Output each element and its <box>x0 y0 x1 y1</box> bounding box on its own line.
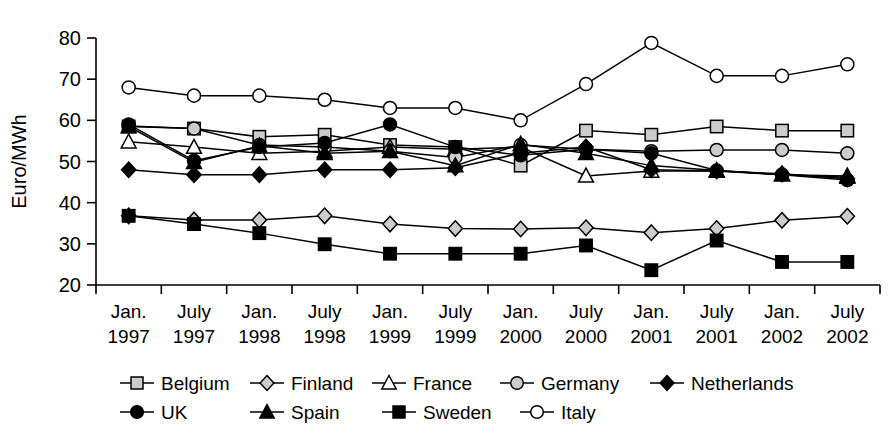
datapoint-netherlands-3-marker <box>318 162 332 178</box>
datapoint-netherlands-4 <box>383 162 397 178</box>
datapoint-uk-5 <box>449 141 462 154</box>
legend-marker-belgium-marker <box>131 377 143 389</box>
legend-marker-finland-marker <box>260 376 274 391</box>
legend-marker-italy-marker <box>531 406 544 419</box>
datapoint-italy-8-marker <box>645 36 658 49</box>
datapoint-finland-7-marker <box>579 220 593 236</box>
datapoint-sweden-3 <box>318 238 330 250</box>
datapoint-france-0 <box>121 134 136 148</box>
legend-item-finland[interactable]: Finland <box>250 373 353 394</box>
legend-marker-belgium <box>131 377 143 389</box>
legend-item-sweden[interactable]: Sweden <box>382 402 492 423</box>
datapoint-italy-8 <box>645 36 658 49</box>
datapoint-sweden-5 <box>449 248 461 260</box>
series-finland[interactable] <box>122 208 855 240</box>
legend-marker-germany-marker <box>511 377 524 390</box>
legend-item-germany[interactable]: Germany <box>500 373 620 394</box>
datapoint-italy-6-marker <box>514 114 527 127</box>
legend-item-uk[interactable]: UK <box>120 402 188 423</box>
legend-label-finland: Finland <box>291 373 353 394</box>
chart-container: 80706050403020Euro/MWhJan.1997July1997Ja… <box>0 0 896 437</box>
axes: 80706050403020Euro/MWh <box>8 27 880 296</box>
x-axis-category-label: 2000 <box>500 326 542 347</box>
datapoint-finland-6-marker <box>514 221 528 237</box>
legend-item-netherlands[interactable]: Netherlands <box>650 373 793 394</box>
y-axis-tick-label: 40 <box>59 192 81 214</box>
legend-marker-uk-marker <box>131 406 144 419</box>
x-axis-category-label: July <box>569 301 603 322</box>
series-germany[interactable] <box>122 120 854 164</box>
datapoint-belgium-10-marker <box>776 124 788 136</box>
datapoint-italy-4-marker <box>383 101 396 114</box>
datapoint-italy-10 <box>775 69 788 82</box>
datapoint-finland-11 <box>840 209 854 225</box>
datapoint-finland-8-marker <box>644 225 658 241</box>
y-axis-tick-label: 60 <box>59 109 81 131</box>
datapoint-sweden-9 <box>710 234 722 246</box>
datapoint-germany-9-marker <box>710 143 723 156</box>
x-axis-category-label: 1999 <box>434 326 476 347</box>
datapoint-netherlands-4-marker <box>383 162 397 178</box>
legend-marker-sweden <box>393 406 405 418</box>
legend-item-italy[interactable]: Italy <box>520 402 596 423</box>
series-italy[interactable] <box>122 36 854 126</box>
datapoint-belgium-10 <box>776 124 788 136</box>
datapoint-italy-4 <box>383 101 396 114</box>
datapoint-italy-9-marker <box>710 69 723 82</box>
datapoint-finland-8 <box>644 225 658 241</box>
datapoint-netherlands-0-marker <box>122 162 136 178</box>
datapoint-netherlands-2 <box>252 167 266 183</box>
datapoint-italy-3-marker <box>318 93 331 106</box>
x-axis-category-label: Jan. <box>633 301 669 322</box>
datapoint-uk-4 <box>383 118 396 131</box>
y-axis-title: Euro/MWh <box>8 114 30 208</box>
line-chart: 80706050403020Euro/MWhJan.1997July1997Ja… <box>0 0 896 437</box>
x-axis-category-label: 1999 <box>369 326 411 347</box>
datapoint-finland-5 <box>448 221 462 237</box>
x-axis-category-label: 1997 <box>108 326 150 347</box>
x-axis-category-label: Jan. <box>111 301 147 322</box>
x-axis-category-label: July <box>177 301 211 322</box>
series-belgium[interactable] <box>122 120 853 172</box>
datapoint-finland-3 <box>318 208 332 224</box>
legend-label-sweden: Sweden <box>423 402 492 423</box>
datapoint-germany-11-marker <box>841 147 854 160</box>
datapoint-netherlands-2-marker <box>252 167 266 183</box>
datapoint-sweden-0-marker <box>122 210 134 222</box>
datapoint-belgium-7-marker <box>580 124 592 136</box>
legend-label-netherlands: Netherlands <box>691 373 793 394</box>
legend-item-spain[interactable]: Spain <box>250 402 340 423</box>
datapoint-italy-10-marker <box>775 69 788 82</box>
x-axis-category-label: Jan. <box>372 301 408 322</box>
x-axis-category-label: 1998 <box>238 326 280 347</box>
legend-marker-sweden-marker <box>393 406 405 418</box>
legend: BelgiumFinlandFranceGermanyNetherlandsUK… <box>120 373 793 423</box>
x-axis-category-label: 2001 <box>696 326 738 347</box>
datapoint-finland-2 <box>252 212 266 228</box>
x-axis-category-label: July <box>830 301 864 322</box>
datapoint-belgium-11-marker <box>841 124 853 136</box>
x-axis-category-label: 2002 <box>826 326 868 347</box>
legend-item-france[interactable]: France <box>372 373 472 394</box>
x-axis-category-label: July <box>438 301 472 322</box>
datapoint-sweden-11 <box>841 256 853 268</box>
datapoint-italy-5 <box>449 101 462 114</box>
legend-item-belgium[interactable]: Belgium <box>120 373 230 394</box>
datapoint-belgium-11 <box>841 124 853 136</box>
x-axis-category-label: July <box>700 301 734 322</box>
datapoint-germany-9 <box>710 143 723 156</box>
legend-label-france: France <box>413 373 472 394</box>
datapoint-italy-7-marker <box>579 78 592 91</box>
x-axis-category-label: 2000 <box>565 326 607 347</box>
datapoint-sweden-7 <box>580 239 592 251</box>
datapoint-finland-5-marker <box>448 221 462 237</box>
datapoint-sweden-6-marker <box>514 248 526 260</box>
datapoint-belgium-9-marker <box>710 120 722 132</box>
legend-label-italy: Italy <box>561 402 596 423</box>
series-netherlands[interactable] <box>122 139 855 186</box>
datapoint-sweden-9-marker <box>710 234 722 246</box>
datapoint-sweden-6 <box>514 248 526 260</box>
datapoint-italy-7 <box>579 78 592 91</box>
y-axis-tick-label: 30 <box>59 233 81 255</box>
datapoint-finland-2-marker <box>252 212 266 228</box>
